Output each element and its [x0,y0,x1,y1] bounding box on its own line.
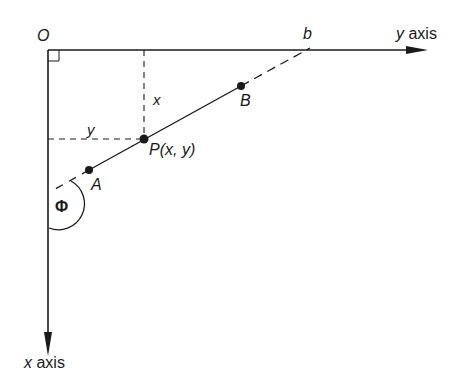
point-a-dot [85,166,93,174]
point-a-label: A [91,177,102,193]
y-axis-arrow-icon [406,46,428,54]
y-axis-label: y axis [396,26,437,42]
point-p-dot [140,135,149,144]
y-distance-label: y [87,122,95,137]
x-axis-label: x axis [24,355,65,371]
right-angle-marker-icon [48,50,59,61]
x-axis-var: x [24,354,32,371]
point-p-label: P(x, y) [149,142,195,158]
x-distance-label: x [153,92,161,107]
angle-phi-label: Φ [55,199,68,215]
x-axis-arrow-icon [44,332,52,356]
point-b-label: B [240,93,251,109]
y-axis-var: y [396,25,404,42]
dashed-extension-to-b [241,48,310,86]
diagram-graphics [0,0,473,377]
intercept-b-label: b [303,26,312,42]
dashed-extension-to-x-axis [50,170,89,192]
origin-label: O [37,28,49,44]
point-b-dot [237,82,245,90]
diagram-canvas: O b y axis x axis x y P(x, y) A B Φ [0,0,473,377]
y-axis-word: axis [408,25,436,42]
x-axis-word: axis [36,354,64,371]
